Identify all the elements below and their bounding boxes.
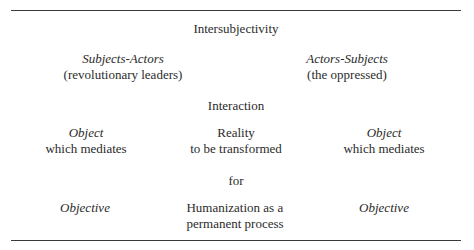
right-mediation: Object which mediates (343, 125, 424, 157)
center-goal-line1: Humanization as a (186, 200, 283, 216)
center-mediation-label: Reality (190, 125, 282, 141)
center-mediation: Reality to be transformed (190, 125, 282, 157)
right-actor: Actors-Subjects (the oppressed) (306, 51, 388, 83)
left-mediation-label: Object (45, 125, 126, 141)
right-goal: Objective (359, 200, 409, 216)
right-actor-group: (the oppressed) (306, 67, 388, 83)
left-mediation-sub: which mediates (45, 141, 126, 157)
right-mediation-sub: which mediates (343, 141, 424, 157)
left-mediation: Object which mediates (45, 125, 126, 157)
title-text: Intersubjectivity (193, 21, 278, 36)
top-rule (11, 10, 461, 11)
relation-label: Interaction (208, 98, 264, 114)
left-actor-role: Subjects-Actors (64, 51, 183, 67)
left-actor-group: (revolutionary leaders) (64, 67, 183, 83)
right-goal-label: Objective (359, 200, 409, 215)
connector-label: for (228, 173, 243, 189)
diagram-title: Intersubjectivity (193, 21, 278, 37)
relation-text: Interaction (208, 98, 264, 113)
center-mediation-sub: to be transformed (190, 141, 282, 157)
center-goal-line2: permanent process (186, 216, 283, 232)
bottom-rule (11, 240, 461, 241)
connector-text: for (228, 173, 243, 188)
center-goal: Humanization as a permanent process (186, 200, 283, 232)
left-actor: Subjects-Actors (revolutionary leaders) (64, 51, 183, 83)
left-goal: Objective (60, 200, 110, 216)
left-goal-label: Objective (60, 200, 110, 215)
right-actor-role: Actors-Subjects (306, 51, 388, 67)
right-mediation-label: Object (343, 125, 424, 141)
